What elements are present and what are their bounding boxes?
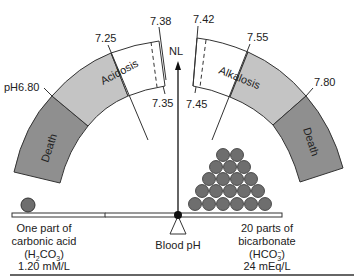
tick-7-35: 7.35 xyxy=(152,97,173,109)
left-gauge: pH6.80 7.25 7.38 7.35 Acidosis Death xyxy=(4,15,173,183)
blood-ph-diagram: pH6.80 7.25 7.38 7.35 Acidosis Death 7.4… xyxy=(0,0,354,277)
tick-7-25: 7.25 xyxy=(95,32,116,44)
svg-text:carbonic acid: carbonic acid xyxy=(12,235,77,247)
svg-text:20 parts of: 20 parts of xyxy=(241,222,294,234)
tick-7-55: 7.55 xyxy=(247,31,268,43)
arrow-head-icon xyxy=(175,61,181,70)
tick-7-42: 7.42 xyxy=(193,13,214,25)
normal-pointer: NL xyxy=(169,45,183,212)
normal-label: NL xyxy=(169,45,183,57)
tick-7-80: 7.80 xyxy=(314,76,335,88)
svg-text:bicarbonate: bicarbonate xyxy=(238,235,296,247)
carbonic-acid-sphere xyxy=(21,198,35,212)
bicarbonate-spheres xyxy=(189,149,272,211)
pivot-icon xyxy=(174,211,182,219)
svg-text:1.20 mM/L: 1.20 mM/L xyxy=(18,260,70,272)
tick-6-80: pH6.80 xyxy=(4,81,39,93)
svg-text:One part of: One part of xyxy=(16,222,72,234)
carbonic-acid-caption: One part of carbonic acid (H2CO3) 1.20 m… xyxy=(12,222,77,272)
tick-7-45: 7.45 xyxy=(186,98,207,110)
beam-left xyxy=(12,213,105,217)
right-gauge: 7.42 7.55 7.80 7.45 Alkalosis Death xyxy=(186,13,343,182)
svg-text:24 mEq/L: 24 mEq/L xyxy=(243,260,290,272)
beam-right xyxy=(178,213,282,217)
bicarbonate-caption: 20 parts of bicarbonate (HCO3−) 24 mEq/L xyxy=(238,222,296,272)
fulcrum-label: Blood pH xyxy=(155,239,200,251)
tick-7-38: 7.38 xyxy=(150,15,171,27)
